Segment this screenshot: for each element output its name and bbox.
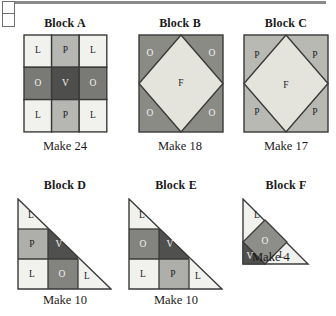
block-d-title: Block D bbox=[8, 178, 122, 193]
block-a-title: Block A bbox=[8, 16, 122, 31]
block-a-diagram: L P L O V O L P L bbox=[23, 34, 108, 133]
block-c-caption: Make 17 bbox=[236, 139, 336, 154]
block-f-title: Block F bbox=[236, 178, 336, 193]
block-c: Block C P P P P F Make 17 bbox=[236, 16, 336, 156]
block-a-caption: Make 24 bbox=[8, 139, 122, 154]
block-b-caption: Make 18 bbox=[128, 139, 232, 154]
block-b-title: Block B bbox=[128, 16, 232, 31]
block-d-diagram: L P V L O L bbox=[17, 198, 112, 290]
block-e: Block E L O V L P L Make 10 bbox=[122, 178, 230, 314]
block-d: Block D L P V L O L Make bbox=[8, 178, 122, 314]
block-c-title: Block C bbox=[236, 16, 336, 31]
block-e-diagram: L O V L P L bbox=[128, 198, 223, 290]
horizontal-rule bbox=[14, 1, 326, 4]
block-c-diagram: P P P P F bbox=[243, 34, 329, 133]
block-e-title: Block E bbox=[122, 178, 230, 193]
block-e-caption: Make 10 bbox=[122, 293, 230, 308]
block-d-caption: Make 10 bbox=[8, 293, 122, 308]
block-b-diagram: O O O O F bbox=[138, 34, 224, 133]
block-f-caption: Make 4 bbox=[252, 250, 336, 265]
block-f: Block F L O V L Make 4 bbox=[236, 178, 336, 314]
block-a: Block A L P L O V O L P L Make 24 bbox=[8, 16, 122, 156]
block-b: Block B O O O O F Make 18 bbox=[128, 16, 232, 156]
